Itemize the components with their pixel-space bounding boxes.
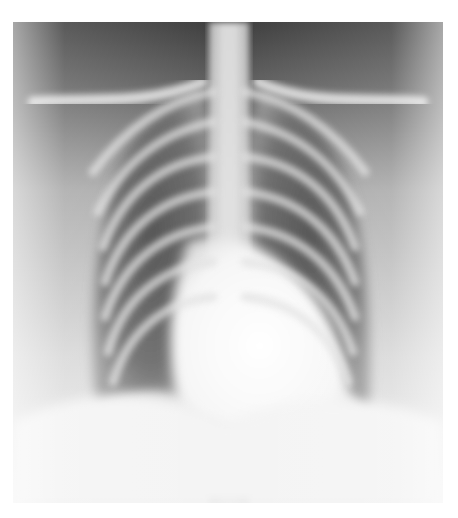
chest-xray-image [13,22,443,503]
xray-rendering [13,22,443,503]
